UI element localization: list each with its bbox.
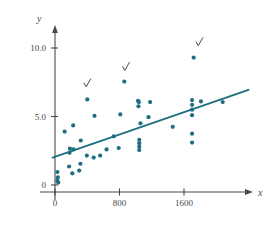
data-point [68,147,72,151]
data-point [190,98,194,102]
data-point [199,99,203,103]
checkmark-icon [196,38,203,46]
data-point [190,113,194,117]
data-point [56,180,60,184]
data-point [71,123,75,127]
data-point-group [55,55,224,184]
data-point [117,146,121,150]
data-point [192,55,196,59]
data-point [71,147,75,151]
data-point [70,171,74,175]
regression-line [53,90,249,158]
data-point [137,100,141,104]
data-point [85,153,89,157]
x-axis-title: x [257,187,263,198]
data-point [77,169,81,173]
data-point [171,125,175,129]
y-axis-arrowhead [52,25,58,33]
y-tick-label: 0 [42,180,47,190]
data-point [190,103,194,107]
y-tick-label: 5.0 [35,112,47,122]
data-point [190,132,194,136]
data-point [122,79,126,83]
data-point [137,148,141,152]
data-point [148,100,152,104]
data-point [55,170,59,174]
y-axis-title: y [36,13,42,24]
data-point [138,121,142,125]
data-point [118,112,122,116]
data-point [63,129,67,133]
x-tick-label: 0 [53,198,58,208]
data-point [92,114,96,118]
data-point [85,97,89,101]
x-axis-tick-labels: 08001600 [53,198,194,208]
y-axis-tick-labels: 05.010.0 [30,43,46,190]
checkmark-icon [84,79,91,87]
data-point [136,104,140,108]
data-point [112,134,116,138]
x-axis-arrowhead [245,189,253,195]
checkmark-icon [123,62,130,70]
scatter-plot-figure: 05.010.0 08001600 y x [0,0,269,226]
data-point [221,100,225,104]
x-axis [40,189,253,195]
data-point [190,108,194,112]
data-point [105,147,109,151]
data-point [67,151,71,155]
annotation-group [84,38,203,87]
data-point [146,115,150,119]
x-tick-label: 1600 [175,198,194,208]
data-point [92,156,96,160]
data-point [190,140,194,144]
chart-canvas: 05.010.0 08001600 y x [0,0,269,226]
data-point [79,138,83,142]
y-tick-label: 10.0 [30,43,46,53]
data-point [98,153,102,157]
x-tick-label: 800 [113,198,127,208]
data-point [67,164,71,168]
data-point [78,162,82,166]
